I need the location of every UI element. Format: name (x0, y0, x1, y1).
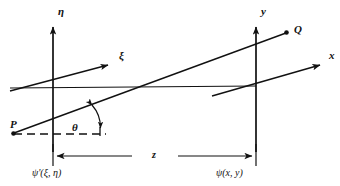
z-distance-label: z (152, 150, 156, 160)
x-axis-label: x (329, 50, 335, 61)
eta-axis-label: η (58, 6, 64, 17)
optical-axis-line (10, 86, 256, 88)
diagram-svg (0, 0, 340, 186)
theta-angle-arc (92, 105, 101, 136)
point-q-marker (284, 30, 289, 35)
xi-axis-label: ξ (119, 50, 124, 61)
point-p-label: P (10, 119, 17, 130)
figure-canvas: η ξ y x P Q θ z ψ'(ξ, η) ψ(x, y) (0, 0, 340, 186)
output-field-label: ψ(x, y) (216, 168, 243, 178)
point-q-label: Q (294, 24, 302, 35)
theta-angle-label: θ (72, 122, 78, 133)
y-axis-label: y (261, 6, 266, 17)
x-axis (212, 65, 320, 96)
input-field-label: ψ'(ξ, η) (32, 168, 61, 178)
